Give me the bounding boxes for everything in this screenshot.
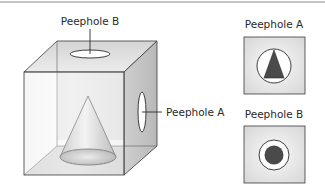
panel-peephole-a: Peephole A [244, 18, 305, 94]
panel-peephole-b: Peephole B [244, 108, 305, 183]
peephole-a-label: Peephole A [166, 106, 225, 118]
cube-front-face [24, 72, 124, 175]
panel-a-title: Peephole A [245, 18, 304, 30]
panel-b-title: Peephole B [245, 108, 304, 120]
peephole-diagram: Peephole B Peephole A Peephole A Peephol… [0, 0, 325, 188]
peephole-b-label: Peephole B [61, 15, 120, 27]
cone-top-view-dot-icon [265, 146, 284, 165]
